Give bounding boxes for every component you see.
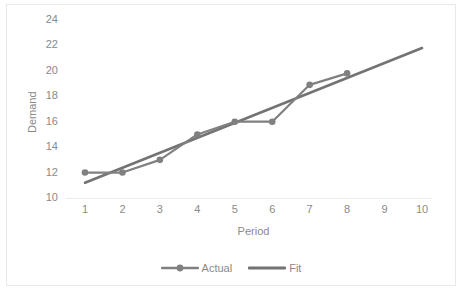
x-axis-tick-label: 10 [410,203,434,215]
x-axis-tick-label: 5 [223,203,247,215]
data-point-marker [157,157,164,164]
data-point-marker [82,169,89,176]
x-axis-tick-label: 7 [298,203,322,215]
y-axis-tick-label: 12 [36,166,58,178]
y-axis-tick-label: 20 [36,64,58,76]
y-axis-tick-label: 10 [36,191,58,203]
chart-legend: Actual Fit [0,262,462,274]
chart-container: 1012141618202224 12345678910 Demand Peri… [0,0,462,294]
legend-item-actual[interactable]: Actual [161,262,233,274]
x-axis-title: Period [204,225,304,237]
series-fit-line [85,48,422,183]
x-axis-tick-label: 3 [148,203,172,215]
legend-item-fit[interactable]: Fit [248,262,301,274]
series-actual-line [85,73,347,172]
legend-marker-fit-icon [248,262,286,274]
plot-area [0,0,462,294]
x-axis-tick-label: 4 [185,203,209,215]
y-axis-title: Demand [26,91,38,133]
data-point-marker [269,118,276,125]
y-axis-tick-label: 24 [36,13,58,25]
data-point-marker [194,131,201,138]
legend-marker-actual-icon [161,262,199,274]
y-axis-tick-label: 16 [36,115,58,127]
data-point-marker [119,169,126,176]
y-axis-tick-label: 14 [36,140,58,152]
data-point-marker [306,82,313,89]
legend-label-actual: Actual [202,262,233,274]
data-point-marker [344,70,351,77]
y-axis-tick-label: 18 [36,89,58,101]
series-actual-markers [82,70,351,176]
x-axis-tick-label: 2 [110,203,134,215]
x-axis-tick-label: 1 [73,203,97,215]
data-point-marker [231,118,238,125]
legend-label-fit: Fit [289,262,301,274]
y-axis-tick-label: 22 [36,38,58,50]
x-axis-tick-label: 8 [335,203,359,215]
x-axis-tick-label: 6 [260,203,284,215]
x-axis-tick-label: 9 [373,203,397,215]
